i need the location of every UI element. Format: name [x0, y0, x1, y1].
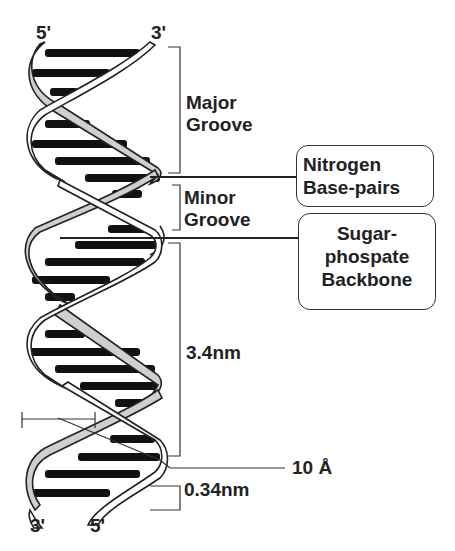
backbone-callout: Sugar- phospate Backbone	[298, 213, 436, 310]
major-groove-label: Major Groove	[186, 92, 253, 136]
end-label-top-left: 5'	[36, 22, 51, 44]
end-label-bottom-right: 5'	[90, 515, 105, 537]
rise-label: 0.34nm	[184, 479, 249, 501]
end-label-top-right: 3'	[151, 22, 166, 44]
diameter-label: 10 Å	[292, 457, 332, 479]
pitch-label: 3.4nm	[186, 342, 241, 364]
base-pairs-callout: Nitrogen Base-pairs	[296, 145, 434, 207]
end-label-bottom-left: 3'	[30, 515, 45, 537]
minor-groove-label: Minor Groove	[184, 187, 251, 231]
